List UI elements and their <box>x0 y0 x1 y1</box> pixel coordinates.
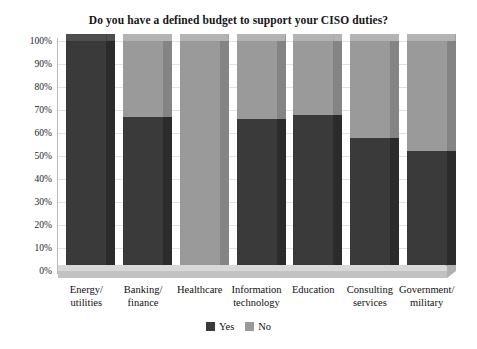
y-axis-tick-label: 0% <box>6 266 52 276</box>
bar-column[interactable] <box>123 41 163 271</box>
y-axis-tick-label: 50% <box>6 151 52 161</box>
bar-front-face <box>350 138 390 271</box>
bar-column[interactable] <box>350 41 390 271</box>
bar-top-face <box>123 34 163 41</box>
bar-front-face <box>407 41 447 151</box>
bar-front-face <box>237 119 277 271</box>
y-axis-tick-label: 30% <box>6 197 52 207</box>
x-axis-label-line: Government/ <box>392 283 461 296</box>
y-axis-tick-label: 40% <box>6 174 52 184</box>
bar-front-face <box>293 115 333 271</box>
legend-item-yes[interactable]: Yes <box>206 321 234 332</box>
floor-front-face <box>58 271 447 278</box>
x-axis-label-line: technology <box>222 296 291 309</box>
bar-front-face <box>407 151 447 271</box>
y-axis-tick-label: 80% <box>6 82 52 92</box>
bar-segment-yes[interactable] <box>123 117 163 271</box>
bar-side-face <box>277 112 286 271</box>
chart-legend: YesNo <box>0 321 477 332</box>
legend-item-no[interactable]: No <box>245 321 271 332</box>
bar-top-side-wedge <box>163 34 172 41</box>
bar-side-face <box>277 34 286 119</box>
legend-swatch-no <box>245 322 254 331</box>
bar-top-face <box>180 34 220 41</box>
bar-segment-yes[interactable] <box>407 151 447 271</box>
bar-column[interactable] <box>293 41 333 271</box>
bar-top-face <box>350 34 390 41</box>
bar-side-face <box>390 131 399 271</box>
bar-front-face <box>123 41 163 117</box>
bar-column[interactable] <box>66 41 106 271</box>
bar-front-face <box>123 117 163 271</box>
bar-side-face <box>163 110 172 271</box>
bar-segment-no[interactable] <box>180 41 220 271</box>
bar-top-face <box>66 34 106 41</box>
legend-swatch-yes <box>206 322 215 331</box>
bar-segment-no[interactable] <box>237 41 277 119</box>
y-axis-tick-label: 10% <box>6 243 52 253</box>
y-axis-tick-label: 70% <box>6 105 52 115</box>
bar-side-face <box>163 34 172 117</box>
bar-top-side-wedge <box>106 34 115 41</box>
bar-segment-no[interactable] <box>293 41 333 115</box>
bar-side-face <box>390 34 399 138</box>
bar-side-face <box>447 34 456 151</box>
bar-front-face <box>350 41 390 138</box>
bar-top-side-wedge <box>333 34 342 41</box>
y-axis-tick-label: 20% <box>6 220 52 230</box>
bar-column[interactable] <box>237 41 277 271</box>
bar-segment-yes[interactable] <box>237 119 277 271</box>
y-axis-tick-label: 100% <box>6 36 52 46</box>
x-axis-category-label: Government/military <box>392 283 461 309</box>
bar-top-side-wedge <box>220 34 229 41</box>
bar-top-face <box>407 34 447 41</box>
y-axis-tick-label: 90% <box>6 59 52 69</box>
y-axis-tick-label: 60% <box>6 128 52 138</box>
bar-segment-no[interactable] <box>123 41 163 117</box>
bar-side-face <box>447 144 456 271</box>
bar-front-face <box>66 41 106 271</box>
bar-top-side-wedge <box>447 34 456 41</box>
floor-side-face <box>447 265 456 278</box>
plot-area <box>58 41 455 271</box>
chart-title: Do you have a defined budget to support … <box>0 14 477 26</box>
bar-top-side-wedge <box>390 34 399 41</box>
bar-front-face <box>237 41 277 119</box>
bar-side-face <box>106 34 115 271</box>
x-axis-label-line: military <box>392 296 461 309</box>
bar-top-face <box>293 34 333 41</box>
bar-front-face <box>293 41 333 115</box>
bar-segment-no[interactable] <box>350 41 390 138</box>
bar-top-side-wedge <box>277 34 286 41</box>
bar-column[interactable] <box>407 41 447 271</box>
legend-label: Yes <box>219 321 234 332</box>
bar-segment-no[interactable] <box>407 41 447 151</box>
bar-segment-yes[interactable] <box>66 41 106 271</box>
x-axis-label-line: finance <box>109 296 178 309</box>
bar-column[interactable] <box>180 41 220 271</box>
chart-container: Do you have a defined budget to support … <box>0 0 477 349</box>
bar-segment-yes[interactable] <box>350 138 390 271</box>
bar-segment-yes[interactable] <box>293 115 333 271</box>
legend-label: No <box>258 321 271 332</box>
bar-side-face <box>220 34 229 271</box>
bar-front-face <box>180 41 220 271</box>
bar-side-face <box>333 108 342 271</box>
bar-side-face <box>333 34 342 115</box>
bar-top-face <box>237 34 277 41</box>
